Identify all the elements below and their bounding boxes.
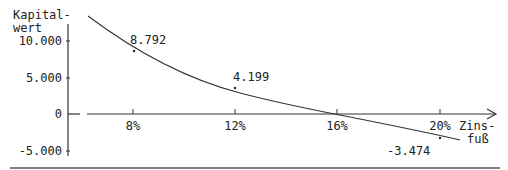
npv-chart: Kapital- wert 10.000 5.000 0 -5.000 8% 1… [0, 0, 508, 170]
annotation-minus-3474: -3.474 [387, 144, 430, 158]
data-point [133, 50, 135, 52]
x-tick-label: 20% [429, 119, 451, 133]
y-axis-label-line1: Kapital- [13, 8, 71, 22]
annotation-8792: 8.792 [130, 33, 166, 47]
x-axis-label-line1: Zins- [459, 119, 495, 133]
data-point [234, 87, 236, 89]
y-tick-label: 0 [55, 107, 62, 121]
y-axis-label-line2: wert [13, 21, 42, 35]
y-tick-label: 10.000 [19, 34, 62, 48]
x-tick-label: 8% [126, 119, 141, 133]
y-tick-label: 5.000 [26, 71, 62, 85]
y-tick-label: -5.000 [19, 144, 62, 158]
x-tick-label: 12% [224, 119, 246, 133]
data-point [439, 137, 441, 139]
annotation-4199: 4.199 [233, 70, 269, 84]
x-axis-label-line2: fuß [467, 132, 489, 146]
x-tick-label: 16% [326, 119, 348, 133]
